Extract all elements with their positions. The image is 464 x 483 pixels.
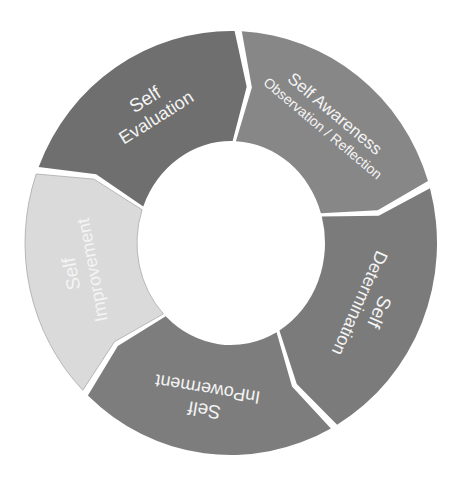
- cycle-segments: SelfEvaluationSelf AwarenessObservation …: [25, 31, 437, 455]
- cycle-diagram: SelfEvaluationSelf AwarenessObservation …: [0, 0, 464, 483]
